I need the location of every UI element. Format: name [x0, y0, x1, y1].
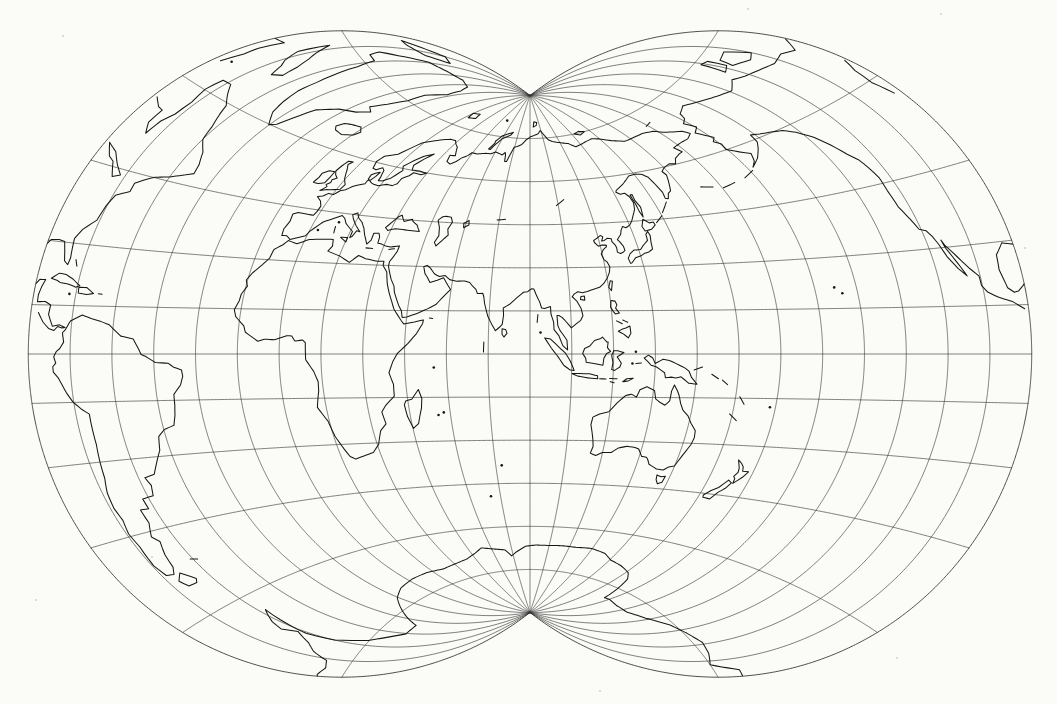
puerto-rico-coastline	[98, 294, 102, 295]
scan-speck	[151, 556, 153, 558]
new-caledonia-coastline	[730, 414, 737, 421]
severnaya-zemlya-coastline	[533, 122, 537, 127]
timor-coastline	[623, 378, 633, 381]
kerguelen-island-dot	[490, 495, 493, 498]
ceram-coastline	[636, 363, 642, 364]
mauritius-island-dot	[442, 411, 445, 414]
scan-speckles-layer	[35, 8, 1026, 692]
svalbard-coastline	[468, 113, 480, 118]
sakhalin-coastline	[630, 195, 643, 217]
coastline-layer	[36, 38, 1025, 676]
seychelles-island-dot	[432, 366, 435, 369]
north-america-coastline	[220, 38, 284, 60]
franz-josef-island-dot	[506, 119, 509, 122]
tasmania-coastline	[656, 475, 665, 484]
borneo-coastline	[583, 337, 611, 365]
world-map-figure	[0, 0, 1057, 704]
crete-coastline	[366, 248, 373, 249]
new-guinea-coastline	[644, 355, 697, 384]
taiwan-coastline	[609, 281, 613, 291]
buru-island-dot	[631, 362, 634, 365]
world-map-svg	[0, 0, 1057, 704]
nicobar-island-dot	[539, 331, 542, 334]
scan-speck	[62, 35, 64, 37]
java-coastline	[572, 374, 598, 379]
hainan-coastline	[580, 296, 584, 300]
antarctica-coastline	[266, 545, 743, 676]
jamaica-island-dot	[68, 293, 71, 296]
kuril-2-coastline	[663, 202, 667, 212]
scan-speck	[747, 8, 749, 10]
socotra-coastline	[429, 318, 432, 319]
africa-coastline	[234, 239, 423, 459]
reunion-island-dot	[437, 414, 440, 417]
visayas-1-coastline	[617, 321, 623, 324]
bahamas-1-coastline	[76, 260, 77, 267]
north-america-coastline	[680, 106, 1025, 309]
scan-speck	[599, 690, 601, 692]
mindanao-coastline	[618, 326, 631, 338]
andaman-coastline	[537, 315, 538, 323]
tierra-del-fuego-coastline	[179, 573, 197, 586]
hispaniola-coastline	[78, 287, 93, 294]
aleutian-3-coastline	[745, 170, 753, 177]
black-sea-coastline	[386, 215, 420, 231]
scan-speck	[940, 13, 942, 15]
sumba-coastline	[610, 382, 614, 383]
st-paul-island-dot	[500, 464, 503, 467]
caspian-sea-coastline	[434, 216, 452, 246]
cuba-coastline	[51, 273, 79, 287]
hawaii-1-island-dot	[841, 292, 844, 295]
lake-balkhash-coastline	[497, 219, 505, 220]
sardinia-coastline	[334, 227, 336, 233]
new-zealand-north-coastline	[733, 460, 749, 483]
north-america-coastline	[845, 60, 895, 93]
banks-island-coastline	[701, 61, 727, 72]
honshu-coastline	[628, 231, 652, 263]
vanuatu-coastline	[740, 397, 744, 405]
scan-speck	[35, 599, 37, 601]
fiji-island-dot	[769, 406, 772, 409]
antarctica-coastline	[266, 610, 327, 676]
solomons-1-coastline	[712, 374, 719, 378]
sri-lanka-coastline	[502, 329, 507, 337]
visayas-2-coastline	[623, 320, 628, 322]
sicily-coastline	[341, 237, 348, 242]
iceland-coastline	[335, 123, 361, 135]
southampton-island-dot	[230, 60, 233, 63]
scan-speck	[896, 657, 898, 659]
balearic-island-dot	[317, 229, 320, 232]
scan-speck	[1024, 247, 1026, 249]
aleutian-2-coastline	[723, 183, 734, 188]
hokkaido-coastline	[642, 219, 655, 231]
corsica-island-dot	[338, 221, 341, 224]
australia-coastline	[590, 385, 695, 470]
aral-sea-coastline	[464, 221, 470, 228]
great-lakes-coastline	[109, 142, 120, 176]
solomons-2-coastline	[722, 380, 727, 384]
north-america-coastline	[683, 39, 795, 106]
cyprus-coastline	[389, 249, 395, 250]
new-britain-coastline	[694, 367, 703, 370]
victoria-island-coastline	[720, 52, 751, 65]
halmahera-island-dot	[635, 350, 638, 353]
hawaii-2-island-dot	[833, 286, 836, 289]
ireland-coastline	[313, 171, 335, 184]
